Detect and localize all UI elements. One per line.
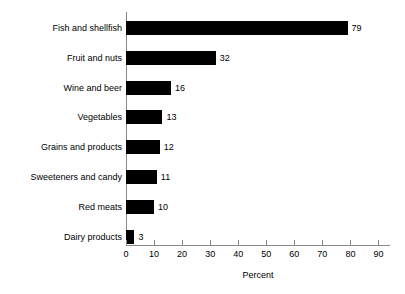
bar-row: 13	[126, 110, 162, 124]
bar-value-label: 12	[160, 140, 174, 154]
x-axis-tick-mark	[126, 240, 127, 245]
x-axis-tick-mark	[378, 240, 379, 245]
bar-value-label: 16	[171, 81, 185, 95]
x-axis-tick-mark	[350, 240, 351, 245]
x-axis-tick-mark	[238, 240, 239, 245]
x-axis-tick-label: 40	[223, 249, 253, 259]
x-axis-tick-mark	[294, 240, 295, 245]
category-label: Sweeteners and candy	[30, 170, 122, 184]
category-label: Dairy products	[64, 230, 122, 244]
x-axis-tick-label: 20	[167, 249, 197, 259]
bar-value-label: 10	[154, 200, 168, 214]
x-axis-tick-mark	[154, 240, 155, 245]
bar-row: 79	[126, 21, 348, 35]
x-axis-tick-label: 30	[195, 249, 225, 259]
x-axis-tick-mark	[182, 240, 183, 245]
category-label: Fish and shellfish	[52, 21, 122, 35]
x-axis-tick-label: 60	[279, 249, 309, 259]
bar-row: 3	[126, 230, 134, 244]
bar-row: 32	[126, 51, 216, 65]
bar	[126, 81, 171, 95]
category-label: Red meats	[78, 200, 122, 214]
bar-chart: 793216131211103 Fish and shellfishFruit …	[0, 0, 405, 294]
x-axis-tick-label: 80	[335, 249, 365, 259]
x-axis-tick-label: 10	[139, 249, 169, 259]
bar-value-label: 32	[216, 51, 230, 65]
bar	[126, 21, 348, 35]
category-label: Fruit and nuts	[67, 51, 122, 65]
category-label: Wine and beer	[63, 81, 122, 95]
x-axis-tick-mark	[266, 240, 267, 245]
bar-value-label: 79	[348, 21, 362, 35]
bar	[126, 170, 157, 184]
bar-row: 16	[126, 81, 171, 95]
bar	[126, 110, 162, 124]
bar-row: 12	[126, 140, 160, 154]
bar	[126, 51, 216, 65]
x-axis-tick-label: 70	[307, 249, 337, 259]
bar	[126, 230, 134, 244]
bar-value-label: 3	[134, 230, 143, 244]
x-axis-tick-mark	[322, 240, 323, 245]
x-axis-tick-label: 0	[111, 249, 141, 259]
bar-row: 10	[126, 200, 154, 214]
bar	[126, 200, 154, 214]
bar-value-label: 13	[162, 110, 176, 124]
x-axis-line	[126, 245, 390, 246]
plot-area: 793216131211103 Fish and shellfishFruit …	[0, 0, 405, 294]
category-label: Grains and products	[41, 140, 122, 154]
x-axis-tick-label: 90	[363, 249, 393, 259]
bar-row: 11	[126, 170, 157, 184]
category-label: Vegetables	[77, 110, 122, 124]
x-axis-tick-label: 50	[251, 249, 281, 259]
bar	[126, 140, 160, 154]
x-axis-title: Percent	[126, 270, 390, 280]
x-axis-tick-mark	[210, 240, 211, 245]
bar-value-label: 11	[157, 170, 170, 184]
